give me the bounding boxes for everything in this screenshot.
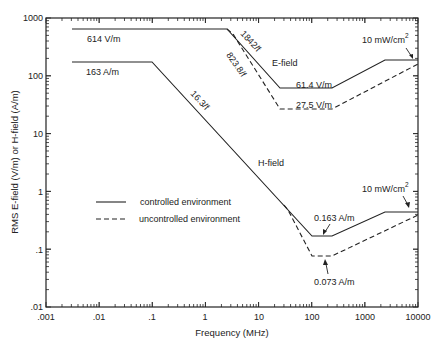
arrowhead-icon	[409, 54, 413, 59]
annotation-0-163-am: 0.163 A/m	[314, 213, 355, 223]
x-axis-title: Frequency (MHz)	[195, 327, 268, 338]
annotation-1842-f: 1842/f	[239, 29, 264, 54]
legend: controlled environment uncontrolled envi…	[96, 197, 241, 224]
y-tick-label: 1000	[23, 13, 43, 23]
x-tick-label: .01	[93, 312, 106, 322]
annotation-superscript: 2	[405, 32, 409, 39]
annotations: 614 V/m 163 A/m 1842/f 823.8/f E-field 6…	[86, 29, 413, 287]
x-tick-label: 10	[254, 312, 264, 322]
curves	[72, 29, 418, 256]
x-tick-label: .1	[148, 312, 156, 322]
annotation-823-8-f: 823.8/f	[224, 50, 248, 79]
annotation-16-3-f: 16.3/f	[189, 89, 212, 113]
y-tick-label: 100	[28, 71, 43, 81]
y-tick-label: .01	[30, 302, 43, 312]
x-tick-label: .001	[37, 312, 55, 322]
h-field-controlled-line	[72, 62, 418, 236]
x-tick-label: 1	[202, 312, 207, 322]
annotation-27-5-vm: 27.5 V/m	[296, 100, 332, 110]
annotation-h-field: H-field	[258, 158, 284, 168]
legend-controlled-label: controlled environment	[140, 197, 232, 207]
chart: 1000 100 10 1 .1 .01 .001 .01 .1 1 10 10…	[0, 0, 438, 352]
arrowhead-icon	[323, 259, 328, 265]
annotation-0-073-am: 0.073 A/m	[314, 277, 355, 287]
annotation-10-mw-h: 10 mW/cm2	[362, 181, 409, 194]
x-tick-label: 100	[304, 312, 319, 322]
arrow-0-073	[326, 264, 328, 274]
annotation-61-4-vm: 61.4 V/m	[296, 80, 332, 90]
y-tick-labels: 1000 100 10 1 .1 .01	[23, 13, 43, 312]
arrowhead-icon	[405, 202, 410, 208]
x-tick-labels: .001 .01 .1 1 10 100 1000 10000	[37, 312, 430, 322]
annotation-e-field: E-field	[272, 58, 298, 68]
y-axis-title: RMS E-field (V/m) or H-field (A/m)	[9, 90, 20, 234]
annotation-text: 10 mW/cm	[362, 184, 405, 194]
annotation-superscript: 2	[405, 181, 409, 188]
annotation-text: 10 mW/cm	[362, 35, 405, 45]
legend-uncontrolled-label: uncontrolled environment	[139, 214, 241, 224]
annotation-614-vm: 614 V/m	[87, 34, 121, 44]
annotation-10-mw-e: 10 mW/cm2	[362, 32, 409, 45]
y-tick-label: 10	[33, 129, 43, 139]
x-tick-label: 10000	[405, 312, 430, 322]
y-tick-label: 1	[38, 187, 43, 197]
y-tick-label: .1	[35, 245, 43, 255]
x-tick-label: 1000	[355, 312, 375, 322]
annotation-163-am: 163 A/m	[86, 67, 119, 77]
